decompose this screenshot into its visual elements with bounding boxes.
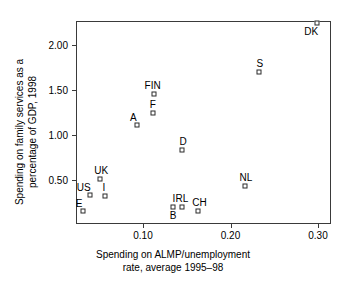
scatter-chart-figure: 0.100.200.300.501.001.502.00 DKSFINFADNL… [0, 0, 346, 293]
plot-area [76, 21, 331, 224]
data-point-marker [257, 70, 262, 75]
data-point-marker [150, 110, 155, 115]
y-axis-tick [72, 45, 76, 46]
data-point-label: NL [239, 173, 252, 183]
data-point-marker [87, 193, 92, 198]
data-point-marker [196, 208, 201, 213]
data-point-label: E [76, 199, 83, 209]
data-point-label: S [256, 59, 263, 69]
data-point-marker [80, 209, 85, 214]
y-axis-tick [72, 180, 76, 181]
data-point-label: CH [192, 198, 207, 208]
data-point-marker [180, 148, 185, 153]
data-point-label: I [102, 183, 105, 193]
x-axis-tick [231, 224, 232, 228]
data-point-label: D [179, 137, 186, 147]
data-point-marker [243, 183, 248, 188]
data-point-marker [315, 20, 320, 25]
x-axis-title-line-2: rate, average 1995–98 [0, 261, 346, 274]
data-point-label: FIN [145, 81, 161, 91]
x-axis-tick [143, 224, 144, 228]
x-axis-tick [318, 224, 319, 228]
data-point-marker [103, 193, 108, 198]
data-point-label: DK [304, 27, 318, 37]
x-axis-tick-label: 0.20 [211, 230, 251, 241]
data-point-marker [134, 123, 139, 128]
data-point-label: A [130, 113, 137, 123]
data-point-label: B [170, 211, 177, 221]
x-axis-tick-label: 0.10 [123, 230, 163, 241]
x-axis-title-line-1: Spending on ALMP/unemployment [0, 248, 346, 261]
y-axis-tick [72, 90, 76, 91]
data-point-marker [170, 205, 175, 210]
data-point-label: IRL [173, 194, 189, 204]
y-axis-title: Spending on family services as a percent… [13, 12, 39, 252]
data-point-label: US [77, 183, 91, 193]
x-axis-tick-label: 0.30 [298, 230, 338, 241]
data-point-marker [98, 177, 103, 182]
data-point-marker [151, 92, 156, 97]
data-point-label: UK [94, 166, 108, 176]
y-axis-title-line-2: percentage of GDP, 1998 [26, 12, 39, 252]
data-point-label: F [150, 100, 156, 110]
x-axis-title: Spending on ALMP/unemployment rate, aver… [0, 248, 346, 274]
y-axis-title-line-1: Spending on family services as a [13, 12, 26, 252]
y-axis-tick [72, 135, 76, 136]
data-point-marker [179, 205, 184, 210]
